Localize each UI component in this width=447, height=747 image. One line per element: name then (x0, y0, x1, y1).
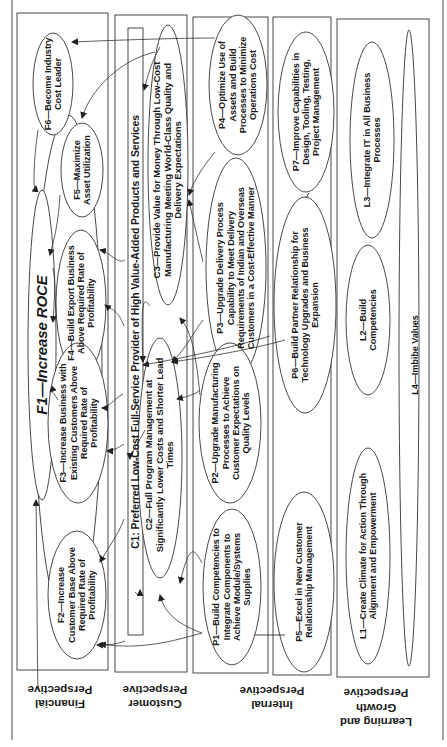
objective-p4: P4—Optimize Use of Assets and Build Proc… (214, 30, 262, 140)
objective-c1: C1: Preferred Low-Cost Full-Service Prov… (129, 32, 143, 632)
objective-f4: F4—Build Export Business Above Required … (59, 244, 103, 362)
perspective-label-learning: Learning and Growth Perspective (321, 685, 431, 728)
perspective-learning-line1: Learning and (321, 714, 431, 728)
objective-p2: P2—Upgrade Manufacturing Processes to Ac… (204, 362, 258, 484)
arrow-c1-f3-b (107, 444, 124, 451)
objective-l1: L1—Create Climate for Action Through Ali… (353, 466, 383, 646)
objective-c2: C2—Full Program Management at Significan… (142, 355, 178, 555)
arrow-p1-c2-b (160, 595, 202, 633)
arrow-c1-f4 (100, 250, 125, 261)
objective-p1: P1—Build Competencies to Integrate Compo… (207, 525, 257, 650)
objective-l2: L2—Build Competencies (353, 275, 383, 365)
arrow-p1-c2 (180, 552, 202, 583)
perspective-financial-line1: Financial (5, 697, 115, 711)
objective-f2: F2—Increase Customer Base Above Required… (52, 547, 102, 643)
arrow-f2-f1 (36, 500, 38, 690)
arrow-c3-f5 (82, 52, 155, 118)
perspective-label-internal: Internal Perspective (217, 684, 327, 713)
perspective-customer-line2: Perspective (100, 683, 210, 697)
perspective-learning-line3: Perspective (321, 685, 431, 699)
perspective-internal-line2: Perspective (217, 684, 327, 698)
objective-l4: L4—Imbibe Values (408, 295, 422, 415)
strategy-map-diagram: F6—Become Industry Cost Leader F5—Maximi… (0, 0, 447, 747)
perspective-label-customer: Customer Perspective (100, 683, 210, 712)
objective-f6: F6—Become Industry Cost Leader (35, 36, 71, 132)
objective-p7: P7—Improve Capabilities in Design, Tooli… (284, 47, 328, 177)
perspective-customer-line1: Customer (100, 697, 210, 711)
objective-p5: P5—Excel in New Customer Relationship Ma… (288, 512, 320, 652)
perspective-internal-line1: Internal (217, 698, 327, 712)
perspective-learning-line2: Growth (321, 700, 431, 714)
objective-f5: F5—Maximize Asset Utilization (63, 135, 101, 205)
objective-c3: C3—Provide Value for Money Through Low-C… (152, 45, 184, 295)
arrow-p4-f6 (72, 38, 215, 42)
objective-f3: F3—Increase Business with Existing Custo… (54, 362, 104, 484)
objective-l3: L3—Integrate IT in All Business Processe… (357, 65, 387, 215)
arrow-p3-c3 (189, 200, 203, 262)
arrow-p2-c3 (180, 318, 200, 395)
arrow-c1-f3-c (100, 519, 124, 562)
objective-f1: F1—Increase ROCE (30, 225, 54, 465)
arrow-p2-c2 (177, 390, 200, 399)
objective-p6: P6—Build Partner Relationship for Techno… (282, 225, 328, 385)
arrow-f6-f1 (34, 130, 38, 189)
perspective-label-financial: Financial Perspective (5, 683, 115, 712)
perspective-financial-line2: Perspective (5, 683, 115, 697)
objective-p3: P3—Upgrade Delivery Process Capability t… (209, 183, 263, 353)
